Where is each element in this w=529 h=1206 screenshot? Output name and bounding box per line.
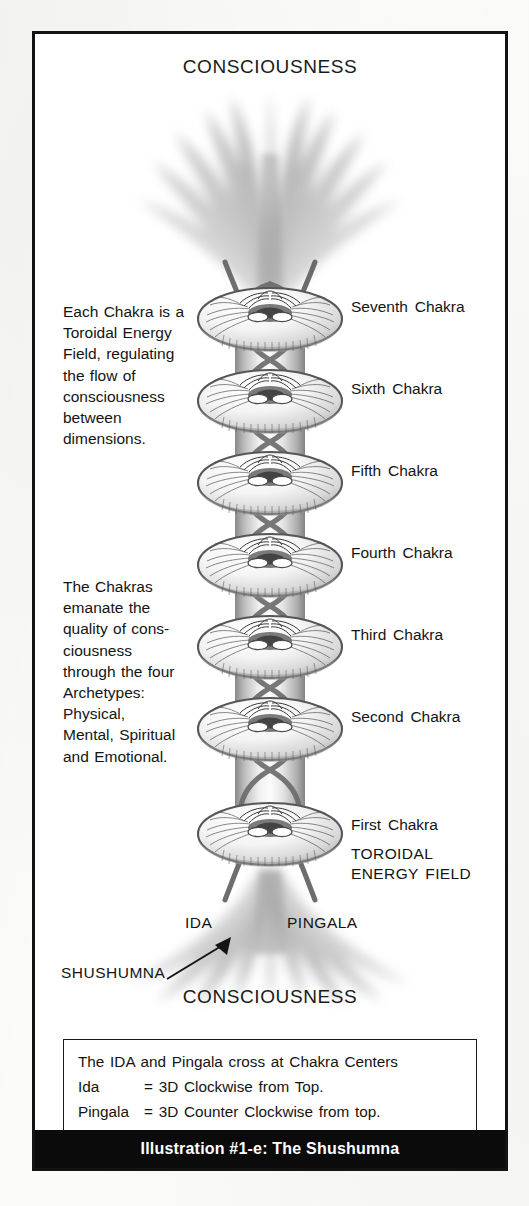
label-shushumna: SHUSHUMNA	[61, 964, 165, 982]
caption-value-pingala: = 3D Counter Clockwise from top.	[144, 1103, 381, 1120]
label-second-chakra: Second Chakra	[351, 708, 460, 726]
label-toroidal-energy-field: TOROIDAL ENERGY FIELD	[351, 844, 471, 883]
paragraph-toroidal-energy-field: Each Chakra is a Toroidal Energy Field, …	[63, 301, 231, 449]
label-pingala: PINGALA	[287, 914, 358, 932]
top-flare-stem	[257, 154, 283, 292]
label-seventh-chakra: Seventh Chakra	[351, 298, 465, 316]
caption-line-1: The IDA and Pingala cross at Chakra Cent…	[78, 1049, 462, 1074]
label-sixth-chakra: Sixth Chakra	[351, 380, 442, 398]
illustration-title-banner: Illustration #1-e: The Shushumna	[35, 1130, 505, 1168]
caption-box: The IDA and Pingala cross at Chakra Cent…	[63, 1039, 477, 1135]
illustration-frame: CONSCIOUSNESS Each Chakra is a Toroidal …	[32, 31, 508, 1171]
label-first-chakra: First Chakra	[351, 816, 438, 834]
shushumna-arrow-icon	[165, 929, 255, 984]
chakra-torus-1	[198, 803, 342, 867]
bottom-flare-stem	[253, 870, 287, 954]
illustration-title-text: Illustration #1-e: The Shushumna	[141, 1140, 400, 1158]
heading-consciousness-bottom: CONSCIOUSNESS	[35, 986, 505, 1008]
heading-consciousness-top: CONSCIOUSNESS	[35, 56, 505, 78]
caption-value-ida: = 3D Clockwise from Top.	[144, 1078, 324, 1095]
caption-key-ida: Ida	[78, 1074, 144, 1099]
caption-line-2: Ida= 3D Clockwise from Top.	[78, 1074, 462, 1099]
chakra-torus-5	[198, 452, 342, 516]
caption-key-pingala: Pingala	[78, 1099, 144, 1124]
scan-page: CONSCIOUSNESS Each Chakra is a Toroidal …	[0, 0, 529, 1206]
illustration-frame-inner: CONSCIOUSNESS Each Chakra is a Toroidal …	[35, 34, 505, 1168]
label-fifth-chakra: Fifth Chakra	[351, 462, 438, 480]
shushumna-diagram	[35, 34, 505, 1034]
label-third-chakra: Third Chakra	[351, 626, 443, 644]
paragraph-archetypes: The Chakras emanate the quality of cons-…	[63, 576, 231, 767]
caption-line-3: Pingala= 3D Counter Clockwise from top.	[78, 1099, 462, 1124]
label-fourth-chakra: Fourth Chakra	[351, 544, 453, 562]
